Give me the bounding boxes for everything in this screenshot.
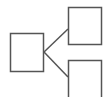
- edge-root-to-bottom: [44, 52, 68, 77]
- tree-diagram: [0, 0, 106, 97]
- child-bottom-node-box: [69, 61, 102, 98]
- edge-root-to-top: [44, 29, 68, 52]
- child-top-node-box: [69, 8, 102, 45]
- root-node-box: [11, 34, 44, 72]
